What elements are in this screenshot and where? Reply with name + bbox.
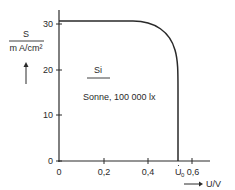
- xtick-0-4: 0,4: [142, 167, 155, 177]
- iv-characteristic-chart: 0 10 20 30 0 0,2 0,4 0,6 U 0 U/V S m A/c…: [0, 0, 235, 190]
- svg-text:Si: Si: [94, 65, 102, 75]
- x-axis-label: U/V: [184, 179, 221, 189]
- iv-curve: [59, 21, 178, 161]
- svg-text:U/V: U/V: [206, 179, 221, 189]
- y-axis-label: S m A/cm²: [9, 29, 44, 84]
- svg-text:0: 0: [181, 172, 185, 178]
- y-tick-labels: 0 10 20 30: [43, 19, 53, 166]
- illuminance-annotation: Sonne, 100 000 lx: [83, 92, 156, 102]
- ytick-0: 0: [48, 156, 53, 166]
- xtick-0-6: 0,6: [187, 167, 200, 177]
- arrow-right-icon: [199, 182, 203, 187]
- arrow-up-icon: [24, 62, 29, 67]
- svg-text:S: S: [23, 29, 29, 39]
- xtick-0: 0: [56, 167, 61, 177]
- ytick-20: 20: [43, 65, 53, 75]
- ytick-30: 30: [43, 19, 53, 29]
- xtick-0-2: 0,2: [98, 167, 111, 177]
- svg-text:m A/cm²: m A/cm²: [10, 43, 43, 53]
- ytick-10: 10: [43, 110, 53, 120]
- series-label-si: Si: [87, 65, 110, 78]
- open-circuit-voltage-label: U 0: [175, 165, 185, 178]
